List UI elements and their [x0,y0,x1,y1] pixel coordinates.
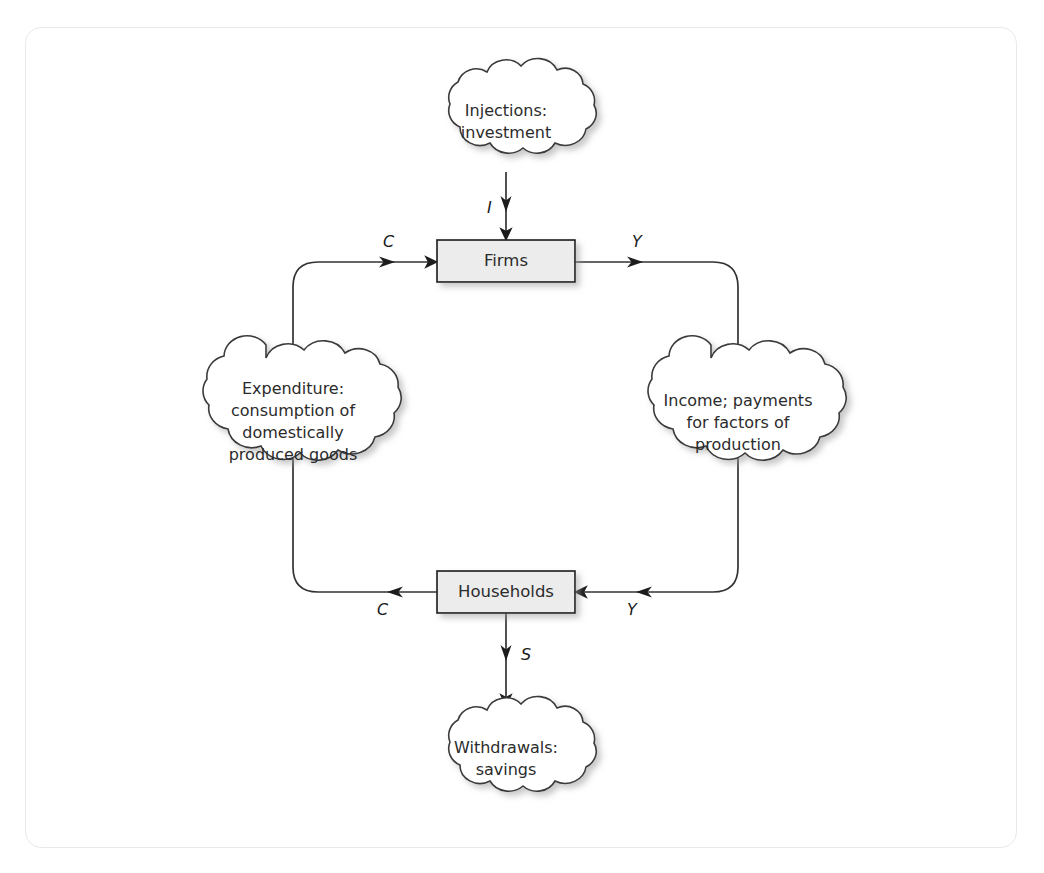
cloud-shape-expenditure [203,336,401,460]
flow-label-consumption-to-firms-C: C [383,232,394,251]
flow-label-income-from-firms-Y: Y [632,232,642,251]
box-shape-households [437,571,575,613]
box-shape-firms [437,240,575,282]
cloud-shape-injections [449,59,597,154]
cloud-shape-income [648,336,846,460]
flow-label-savings-S: S [521,645,531,664]
flow-label-income-to-households-Y: Y [627,600,637,619]
cloud-shape-withdrawals [449,697,597,792]
flow-label-injection-I: I [487,198,492,217]
circular-flow-diagram [0,0,1044,873]
flow-label-consumption-from-households-C: C [377,600,388,619]
